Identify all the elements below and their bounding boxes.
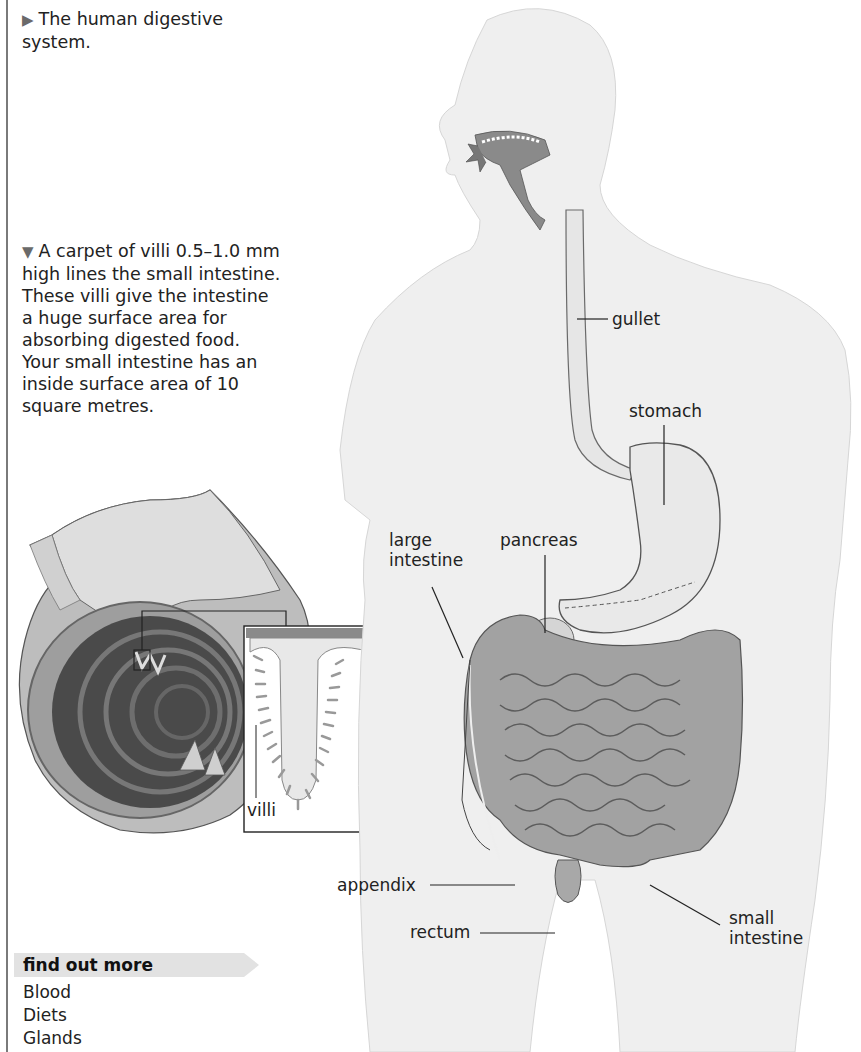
find-out-more-banner: find out more	[14, 953, 259, 977]
gullet-label: gullet	[612, 309, 660, 329]
find-out-more-link-glands[interactable]: Glands	[23, 1027, 82, 1050]
find-out-more-links: Blood Diets Glands	[23, 981, 82, 1050]
find-out-more-link-diets[interactable]: Diets	[23, 1004, 82, 1027]
large-intestine-label-line1: large	[389, 530, 463, 550]
digestive-system-illustration	[0, 0, 861, 1052]
appendix-label: appendix	[337, 875, 416, 895]
small-intestine-label-line2: intestine	[729, 928, 803, 948]
large-intestine-label-line2: intestine	[389, 550, 463, 570]
find-out-more-title: find out more	[23, 954, 153, 976]
pancreas-label: pancreas	[500, 530, 578, 550]
stomach-label: stomach	[629, 401, 702, 421]
small-intestine-label-line1: small	[729, 908, 803, 928]
rectum-label: rectum	[410, 922, 470, 942]
small-intestine-label: small intestine	[729, 908, 803, 948]
find-out-more-link-blood[interactable]: Blood	[23, 981, 82, 1004]
large-intestine-label: large intestine	[389, 530, 463, 570]
